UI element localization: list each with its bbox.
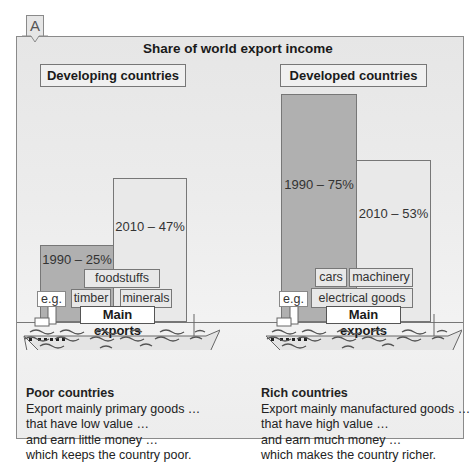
description-line: that have low value … bbox=[26, 417, 200, 433]
eg-label: e.g. bbox=[37, 291, 66, 307]
description-line: which keeps the country poor. bbox=[26, 448, 200, 464]
description-line: Export mainly manufactured goods … bbox=[261, 402, 470, 418]
chart-title: Share of world export income bbox=[0, 41, 476, 56]
bar-label: 2010 – 53% bbox=[357, 206, 430, 221]
main-exports-label-right: Main exports bbox=[326, 306, 401, 324]
description-line: Export mainly primary goods … bbox=[26, 402, 200, 418]
description-rich: Rich countries Export mainly manufacture… bbox=[261, 386, 470, 464]
group-label-developed: Developed countries bbox=[280, 64, 427, 87]
waves-icon bbox=[262, 326, 462, 354]
description-poor: Poor countries Export mainly primary goo… bbox=[26, 386, 200, 464]
bar-label: 2010 – 47% bbox=[114, 219, 186, 234]
description-line: and earn little money … bbox=[26, 433, 200, 449]
description-line: and earn much money … bbox=[261, 433, 470, 449]
export-cars: cars bbox=[315, 268, 347, 287]
description-line: which makes the country richer. bbox=[261, 448, 470, 464]
export-foodstuffs: foodstuffs bbox=[84, 269, 160, 288]
figure-label: A bbox=[30, 17, 40, 34]
bar-label: 1990 – 25% bbox=[41, 252, 113, 267]
bar-label: 1990 – 75% bbox=[282, 177, 356, 192]
description-heading: Rich countries bbox=[261, 386, 470, 402]
export-machinery: machinery bbox=[349, 268, 413, 287]
eg-label: e.g. bbox=[279, 291, 308, 307]
waves-icon bbox=[20, 326, 220, 354]
figure-label-tab: A bbox=[26, 15, 44, 37]
description-heading: Poor countries bbox=[26, 386, 200, 402]
group-label-developing: Developing countries bbox=[40, 64, 186, 87]
description-line: that have high value … bbox=[261, 417, 470, 433]
main-exports-label-left: Main exports bbox=[80, 306, 155, 324]
export-electrical-goods: electrical goods bbox=[311, 288, 413, 308]
